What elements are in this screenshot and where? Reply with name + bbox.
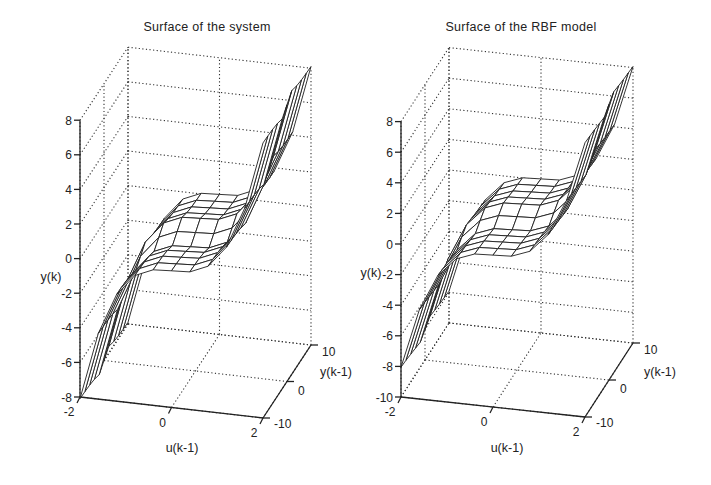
z-tick-label: 6 <box>386 146 393 160</box>
figure-background <box>0 0 711 485</box>
x-tick-label: 0 <box>159 416 166 430</box>
z-tick-label: 8 <box>386 115 393 129</box>
z-tick-label: 8 <box>65 114 72 128</box>
z-tick-label: 4 <box>386 176 393 190</box>
z-tick-label: 2 <box>65 218 72 232</box>
x-axis-label: u(k-1) <box>491 441 524 455</box>
figure-canvas: Surface of the system -8-6-4-202468-202-… <box>0 0 711 485</box>
z-tick-label: 4 <box>65 183 72 197</box>
z-tick-label: -2 <box>382 268 393 282</box>
z-axis-label: y(k) <box>41 270 62 284</box>
x-axis-label: u(k-1) <box>166 441 199 455</box>
z-tick-label: 0 <box>65 252 72 266</box>
y-axis-label: y(k-1) <box>644 365 676 379</box>
y-tick-label: 10 <box>644 343 658 357</box>
y-tick-label: -10 <box>274 417 292 431</box>
y-tick-label: 0 <box>298 384 305 398</box>
z-tick-label: -2 <box>61 287 72 301</box>
z-tick-label: -8 <box>382 360 393 374</box>
x-tick-label: -2 <box>385 405 396 419</box>
z-tick-label: -8 <box>61 391 72 405</box>
plot-title: Surface of the system <box>143 20 270 34</box>
y-tick-label: 0 <box>620 382 627 396</box>
z-tick-label: 2 <box>386 207 393 221</box>
x-tick-label: 2 <box>251 426 258 440</box>
x-tick-label: 0 <box>481 415 488 429</box>
y-tick-label: -10 <box>596 416 614 430</box>
z-axis-label: y(k) <box>361 266 382 280</box>
x-tick-label: -2 <box>64 405 75 419</box>
z-tick-label: -4 <box>61 321 72 335</box>
y-tick-label: 10 <box>322 345 336 359</box>
plot-title: Surface of the RBF model <box>445 20 596 34</box>
z-tick-label: 0 <box>386 238 393 252</box>
x-tick-label: 2 <box>573 425 580 439</box>
y-axis-label: y(k-1) <box>320 365 352 379</box>
z-tick-label: -6 <box>382 329 393 343</box>
z-tick-label: -6 <box>61 356 72 370</box>
z-tick-label: 6 <box>65 148 72 162</box>
z-tick-label: -4 <box>382 299 393 313</box>
z-tick-label: -10 <box>376 391 394 405</box>
